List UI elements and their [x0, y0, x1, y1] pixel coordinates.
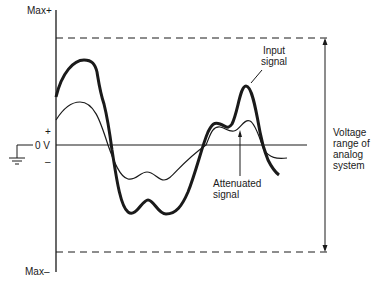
max-plus-label: Max+ — [27, 5, 52, 16]
diagram-graphics — [0, 0, 374, 286]
attenuated-signal-curve — [56, 102, 287, 180]
diagram-canvas: Max+ Max– + – 0 V Input signal Attenuate… — [0, 0, 374, 286]
voltage-range-arrow — [323, 38, 328, 252]
voltage-range-label: Voltage range of analog system — [333, 127, 370, 171]
attenuated-signal-label: Attenuated signal — [213, 178, 261, 200]
input-signal-pointer — [251, 70, 262, 83]
attenuated-signal-line1: Attenuated — [213, 178, 261, 189]
zero-volt-label: 0 V — [35, 140, 50, 151]
voltage-range-line1: Voltage — [333, 127, 370, 138]
input-signal-line2: signal — [257, 56, 291, 67]
max-minus-label: Max– — [25, 266, 49, 277]
minus-label: – — [45, 156, 51, 167]
input-signal-line1: Input — [257, 45, 291, 56]
ground-icon — [9, 145, 33, 164]
plus-label: + — [45, 126, 51, 137]
attenuated-signal-line2: signal — [213, 189, 261, 200]
input-signal-label: Input signal — [257, 45, 291, 67]
voltage-range-line2: range of — [333, 138, 370, 149]
voltage-range-line4: system — [333, 160, 370, 171]
voltage-range-line3: analog — [333, 149, 370, 160]
